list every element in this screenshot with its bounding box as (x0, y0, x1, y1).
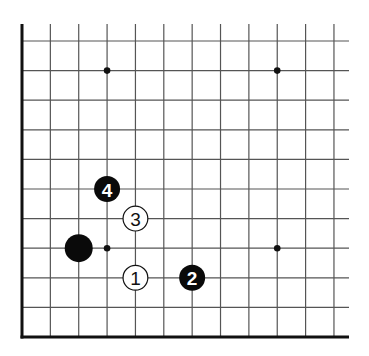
black-stone-icon (65, 234, 93, 262)
white-stone-3: 3 (123, 206, 148, 231)
black-stone (65, 234, 93, 262)
star-point-icon (104, 67, 111, 74)
move-number: 2 (187, 268, 198, 289)
move-number: 4 (102, 180, 113, 201)
star-point-icon (274, 245, 281, 252)
star-point-icon (104, 245, 111, 252)
black-stone-2: 2 (179, 265, 205, 291)
go-board-diagram: 1234 (0, 0, 369, 356)
move-number: 1 (130, 268, 141, 289)
black-stone-4: 4 (94, 176, 120, 202)
grid-lines (22, 24, 349, 337)
star-point-icon (274, 67, 281, 74)
white-stone-1: 1 (123, 265, 148, 290)
move-number: 3 (130, 209, 141, 230)
